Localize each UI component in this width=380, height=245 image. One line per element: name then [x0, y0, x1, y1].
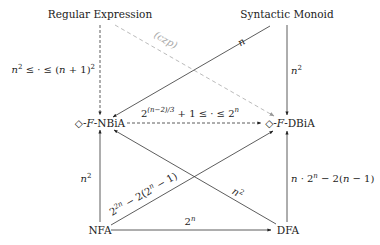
diamond-prefix: ◇-: [75, 117, 87, 129]
node-f-nbia: ◇-F-NBiA: [75, 117, 126, 129]
automata-conversion-diagram: Regular Expression Syntactic Monoid ◇-F-…: [0, 0, 380, 245]
label-monoid-to-dbia: n2: [291, 64, 302, 76]
node-syntactic-monoid: Syntactic Monoid: [240, 8, 334, 20]
dbia-suffix: -DBiA: [284, 117, 315, 129]
label-dfa-to-dbia: n · 2n − 2(n − 1): [291, 172, 374, 184]
label-regex-to-nbia: n2 ≤ · ≤ (n + 1)2: [12, 63, 95, 75]
edge-nfa-to-dbia: [111, 131, 273, 225]
nbia-suffix: -NBiA: [94, 117, 126, 129]
edge-dfa-to-nbia: [114, 130, 276, 224]
node-f-dbia: ◇-F-DBiA: [265, 117, 315, 129]
diamond-prefix: ◇-: [265, 117, 277, 129]
label-nfa-to-nbia: n2: [81, 172, 92, 184]
node-regular-expression: Regular Expression: [48, 8, 153, 20]
label-nfa-to-dbia: 22n − 2(2n − 1): [107, 169, 179, 218]
node-dfa: DFA: [277, 224, 300, 236]
edge-monoid-to-nbia: [113, 26, 270, 117]
label-nbia-to-dbia: 2(n−2)/3 + 1 ≤ · ≤ 2n: [141, 106, 240, 119]
label-nfa-to-dfa: 2n: [185, 215, 196, 227]
label-monoid-to-nbia: n: [236, 36, 247, 49]
label-czp: (czp): [152, 29, 179, 51]
label-dfa-to-nbia: n2: [230, 185, 245, 201]
node-nfa: NFA: [88, 224, 112, 236]
